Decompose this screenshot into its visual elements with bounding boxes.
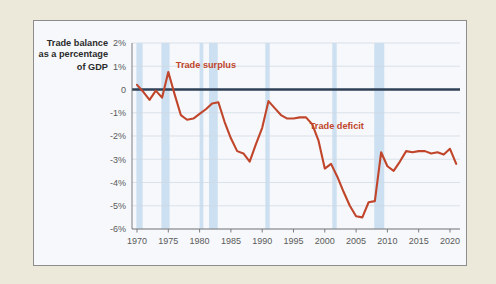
chart-panel: 2%1%0-1%-2%-3%-4%-5%-6% 1970197519801985…	[33, 20, 467, 266]
y-tick-label--3%: -3%	[110, 155, 126, 165]
axis-title-line2: as a percentage	[39, 49, 108, 59]
y-tick-label-0: 0	[121, 85, 126, 95]
gridlines-group	[132, 43, 460, 229]
x-tick-label-2020: 2020	[440, 236, 460, 246]
x-tick-label-2000: 2000	[315, 236, 335, 246]
x-tick-label-1990: 1990	[252, 236, 272, 246]
axis-title-line1: Trade balance	[47, 38, 108, 48]
axis-spines-group	[132, 43, 460, 233]
x-axis-tick-labels: 1970197519801985199019952000200520102015…	[127, 236, 460, 246]
plot-area: 2%1%0-1%-2%-3%-4%-5%-6% 1970197519801985…	[34, 21, 468, 267]
x-tick-label-2015: 2015	[409, 236, 429, 246]
trade-balance-series-path	[137, 72, 456, 217]
y-axis-title: Trade balanceas a percentageof GDP	[39, 38, 108, 71]
x-tick-label-1995: 1995	[283, 236, 303, 246]
y-tick-label-1%: 1%	[113, 62, 126, 72]
y-tick-label--1%: -1%	[110, 108, 126, 118]
x-tick-label-2005: 2005	[346, 236, 366, 246]
trade-balance-line-chart: 2%1%0-1%-2%-3%-4%-5%-6% 1970197519801985…	[34, 21, 468, 267]
y-tick-label--6%: -6%	[110, 224, 126, 234]
y-tick-label-2%: 2%	[113, 38, 126, 48]
data-series-line	[137, 72, 456, 217]
x-tick-label-1985: 1985	[221, 236, 241, 246]
y-tick-label--4%: -4%	[110, 178, 126, 188]
y-tick-label--2%: -2%	[110, 131, 126, 141]
axis-title-line3: of GDP	[77, 62, 108, 72]
annotation-trade-surplus: Trade surplus	[176, 60, 236, 70]
x-tick-label-1970: 1970	[127, 236, 147, 246]
figure-root: 2%1%0-1%-2%-3%-4%-5%-6% 1970197519801985…	[0, 0, 496, 284]
annotation-trade-deficit: Trade deficit	[310, 121, 364, 131]
y-axis-tick-labels: 2%1%0-1%-2%-3%-4%-5%-6%	[110, 38, 126, 234]
x-tick-label-1975: 1975	[158, 236, 178, 246]
x-tick-label-1980: 1980	[190, 236, 210, 246]
y-tick-label--5%: -5%	[110, 201, 126, 211]
x-tick-label-2010: 2010	[377, 236, 397, 246]
